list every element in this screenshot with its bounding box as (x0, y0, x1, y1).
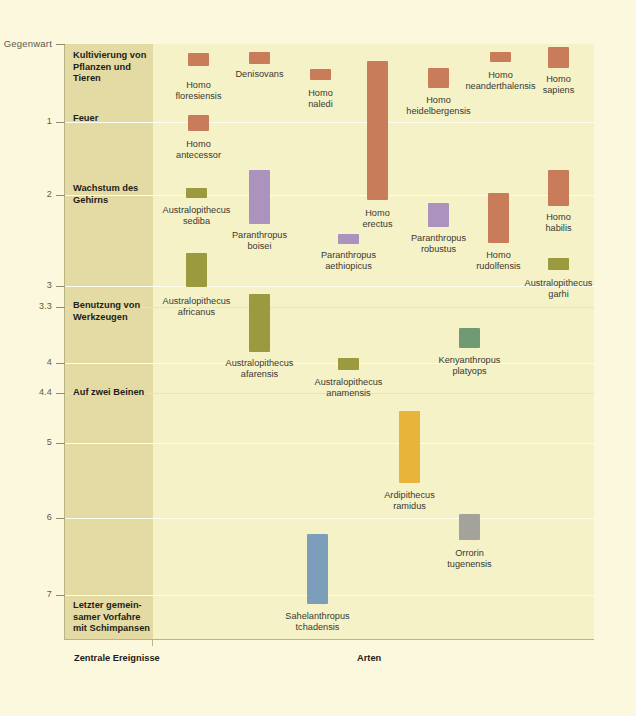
label-paranthropus-aethiopicus: Paranthropus aethiopicus (305, 250, 392, 272)
y-tick-label-4-4: 4.4 (0, 387, 52, 397)
bar-denisovans[interactable] (249, 52, 270, 64)
bar-ardipithecus-ramidus[interactable] (399, 411, 420, 483)
caption-species-column: Arten (357, 653, 381, 663)
bar-homo-naledi[interactable] (310, 69, 331, 80)
bar-homo-sapiens[interactable] (548, 47, 569, 68)
label-paranthropus-boisei: Paranthropus boisei (218, 230, 301, 252)
y-tick-label-6: 6 (0, 512, 52, 522)
bar-paranthropus-aethiopicus[interactable] (338, 234, 359, 244)
x-axis-line (64, 639, 594, 640)
bar-homo-erectus[interactable] (367, 61, 388, 200)
label-australopithecus-afarensis: Australopithecus afarensis (210, 358, 309, 380)
bar-homo-rudolfensis[interactable] (488, 193, 509, 243)
bar-homo-neanderthalensis[interactable] (490, 52, 511, 62)
label-australopithecus-africanus: Australopithecus africanus (147, 296, 246, 318)
event-bipedalism: Auf zwei Beinen (73, 387, 151, 399)
y-tick-4-4 (56, 393, 65, 394)
bar-orrorin-tugenensis[interactable] (459, 514, 480, 540)
bar-homo-antecessor[interactable] (188, 115, 209, 131)
event-fire: Feuer (73, 113, 151, 125)
bar-homo-heidelbergensis[interactable] (428, 68, 449, 88)
y-tick-label-7: 7 (0, 589, 52, 599)
label-homo-habilis: Homo habilis (527, 212, 590, 234)
label-australopithecus-sediba: Australopithecus sediba (147, 205, 246, 227)
gridline-4 (65, 363, 594, 364)
bar-australopithecus-afarensis[interactable] (249, 294, 270, 352)
y-tick-2 (56, 195, 65, 196)
y-tick-6 (56, 518, 65, 519)
bar-kenyanthropus-platyops[interactable] (459, 328, 480, 348)
y-tick-5 (56, 443, 65, 444)
event-last-common-ancestor: Letzter gemein- samer Vorfahre mit Schim… (73, 600, 151, 635)
event-brain-growth: Wachstum des Gehirns (73, 183, 151, 206)
label-homo-heidelbergensis: Homo heidelbergensis (396, 95, 481, 117)
y-tick-Gegenwart (56, 44, 65, 45)
y-tick-7 (56, 595, 65, 596)
y-tick-3-3 (56, 307, 65, 308)
y-tick-label-1: 1 (0, 116, 52, 126)
bar-paranthropus-boisei[interactable] (249, 170, 270, 224)
y-tick-label-5: 5 (0, 437, 52, 447)
label-australopithecus-garhi: Australopithecus garhi (513, 278, 604, 300)
label-homo-floresiensis: Homo floresiensis (160, 80, 237, 102)
bar-sahelanthropus-tchadensis[interactable] (307, 534, 328, 604)
y-tick-label-4: 4 (0, 357, 52, 367)
label-homo-antecessor: Homo antecessor (163, 139, 234, 161)
bar-homo-habilis[interactable] (548, 170, 569, 206)
y-tick-3 (56, 286, 65, 287)
label-homo-sapiens: Homo sapiens (527, 74, 590, 96)
y-tick-label-3: 3 (0, 280, 52, 290)
y-tick-label-2: 2 (0, 189, 52, 199)
gridline-5 (65, 443, 594, 444)
label-homo-erectus: Homo erectus (341, 208, 414, 230)
bar-homo-floresiensis[interactable] (188, 53, 209, 66)
events-band (65, 44, 153, 639)
column-separator-tick (152, 639, 153, 646)
gridline-6 (65, 518, 594, 519)
y-axis-line (64, 44, 65, 640)
bar-australopithecus-sediba[interactable] (186, 188, 207, 198)
bar-australopithecus-garhi[interactable] (548, 258, 569, 270)
y-tick-label-Gegenwart: Gegenwart (0, 38, 52, 49)
y-tick-1 (56, 122, 65, 123)
bar-australopithecus-africanus[interactable] (186, 253, 207, 287)
label-homo-rudolfensis: Homo rudolfensis (463, 250, 534, 272)
label-australopithecus-anamensis: Australopithecus anamensis (299, 377, 398, 399)
plot-area: Kultivierung von Pflanzen und TierenFeue… (65, 44, 594, 639)
event-cultivation: Kultivierung von Pflanzen und Tieren (73, 50, 151, 85)
y-tick-4 (56, 363, 65, 364)
caption-events-column: Zentrale Ereignisse (74, 653, 160, 663)
label-denisovans: Denisovans (224, 69, 295, 80)
bar-paranthropus-robustus[interactable] (428, 203, 449, 227)
hominid-timeline-chart: Millionen Jahre her Kultivierung von Pfl… (0, 0, 636, 716)
label-kenyanthropus-platyops: Kenyanthropus platyops (428, 355, 511, 377)
bar-australopithecus-anamensis[interactable] (338, 358, 359, 370)
event-tool-use: Benutzung von Werkzeugen (73, 300, 151, 323)
label-homo-naledi: Homo naledi (287, 88, 354, 110)
label-orrorin-tugenensis: Orrorin tugenensis (435, 548, 504, 570)
gridline-7 (65, 595, 594, 596)
y-tick-label-3-3: 3.3 (0, 301, 52, 311)
label-ardipithecus-ramidus: Ardipithecus ramidus (372, 490, 447, 512)
label-sahelanthropus-tchadensis: Sahelanthropus tchadensis (273, 611, 362, 633)
